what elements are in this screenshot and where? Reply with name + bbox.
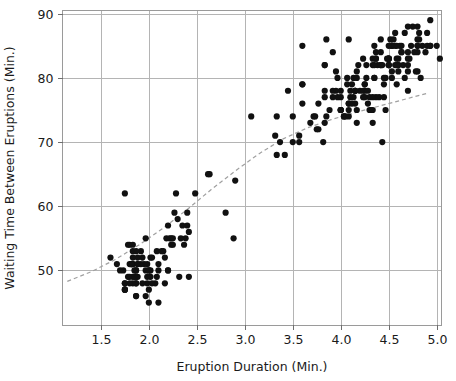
data-point: [296, 133, 302, 139]
data-point: [272, 133, 278, 139]
data-point: [162, 255, 168, 261]
y-axis-title: Waiting Time Between Eruptions (Min.): [2, 46, 17, 289]
data-point: [349, 81, 355, 87]
data-point: [434, 43, 440, 49]
data-point: [422, 49, 428, 55]
data-point: [371, 62, 377, 68]
data-point: [139, 255, 145, 261]
y-tick-label: 50: [38, 263, 54, 278]
data-point: [114, 261, 120, 267]
x-tick-label: 5.0: [428, 332, 448, 347]
data-point: [133, 248, 139, 254]
chart-canvas: 5060708090 1.52.02.53.03.54.04.55.0 Erup…: [0, 0, 456, 381]
data-point: [130, 255, 136, 261]
data-point: [338, 88, 344, 94]
data-point: [378, 36, 384, 42]
data-point: [416, 30, 422, 36]
data-point: [296, 139, 302, 145]
data-point: [386, 43, 392, 49]
data-point: [322, 88, 328, 94]
data-point: [334, 75, 340, 81]
data-point: [392, 30, 398, 36]
data-point: [330, 94, 336, 100]
y-tick-label: 80: [38, 71, 54, 86]
data-point: [410, 23, 416, 29]
data-point: [170, 242, 176, 248]
data-point: [389, 75, 395, 81]
data-point: [371, 43, 377, 49]
data-point: [128, 261, 134, 267]
data-point: [173, 190, 179, 196]
data-point: [165, 267, 171, 273]
data-point: [354, 75, 360, 81]
data-point: [143, 293, 149, 299]
data-point: [143, 235, 149, 241]
y-tick-label: 60: [38, 199, 54, 214]
data-point: [333, 68, 339, 74]
y-tick-label: 90: [38, 7, 54, 22]
data-point: [371, 75, 377, 81]
data-point: [315, 100, 321, 106]
data-point: [381, 94, 387, 100]
data-point: [379, 139, 385, 145]
data-point: [350, 94, 356, 100]
data-point: [349, 100, 355, 106]
x-tick-label: 2.0: [140, 332, 160, 347]
data-point: [402, 30, 408, 36]
data-point: [362, 81, 368, 87]
data-point: [154, 274, 160, 280]
x-tick-label: 1.5: [92, 332, 112, 347]
data-point: [160, 248, 166, 254]
data-point: [354, 120, 360, 126]
data-point: [346, 36, 352, 42]
data-point: [146, 287, 152, 293]
data-point: [406, 56, 412, 62]
data-point: [277, 139, 283, 145]
data-point: [232, 177, 238, 183]
data-point: [122, 280, 128, 286]
x-tick-label: 4.0: [332, 332, 352, 347]
data-point: [192, 190, 198, 196]
data-point: [370, 107, 376, 113]
data-point: [117, 267, 123, 273]
data-point: [402, 75, 408, 81]
x-axis-title: Eruption Duration (Min.): [177, 359, 328, 374]
data-point: [299, 43, 305, 49]
data-point: [424, 30, 430, 36]
data-point: [394, 43, 400, 49]
data-point: [290, 139, 296, 145]
data-point: [139, 280, 145, 286]
data-point: [176, 274, 182, 280]
data-point: [155, 299, 161, 305]
data-point: [186, 274, 192, 280]
data-point: [248, 113, 254, 119]
data-point: [175, 216, 181, 222]
data-point: [322, 62, 328, 68]
data-point: [146, 299, 152, 305]
data-point: [312, 113, 318, 119]
data-point: [323, 113, 329, 119]
data-point: [346, 113, 352, 119]
data-point: [378, 62, 384, 68]
data-point: [330, 88, 336, 94]
data-point: [122, 190, 128, 196]
data-point: [405, 49, 411, 55]
data-point: [363, 75, 369, 81]
data-point: [326, 107, 332, 113]
data-point: [322, 120, 328, 126]
data-point: [373, 49, 379, 55]
data-point: [394, 62, 400, 68]
data-point: [186, 229, 192, 235]
data-point: [299, 81, 305, 87]
data-point: [274, 152, 280, 158]
data-point: [171, 210, 177, 216]
data-point: [394, 56, 400, 62]
data-point: [307, 120, 313, 126]
data-point: [354, 107, 360, 113]
data-point: [381, 81, 387, 87]
data-point: [274, 113, 280, 119]
data-point: [370, 120, 376, 126]
data-point: [135, 261, 141, 267]
data-point: [363, 62, 369, 68]
data-point: [320, 139, 326, 145]
